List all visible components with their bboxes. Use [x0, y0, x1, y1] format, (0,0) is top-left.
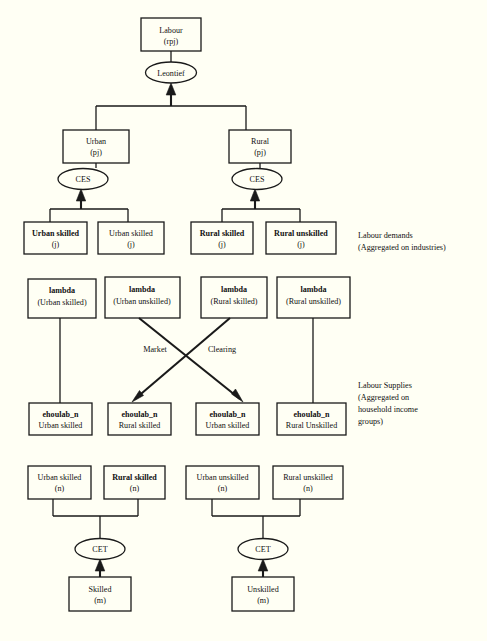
node-cet-left: CET — [75, 539, 125, 560]
node-labour: Labour (rpj) — [141, 18, 201, 51]
node-unskilled: Unskilled (m) — [232, 577, 294, 611]
node-ces-left: CES — [58, 169, 108, 190]
node-demand4-line2: (j) — [297, 240, 305, 249]
node-urban-box — [63, 130, 129, 163]
node-rural-line1: Rural — [251, 137, 270, 146]
node-supply1-line2: Urban skilled — [39, 421, 83, 430]
node-demand-rural-skilled: Rural skilled (j) — [191, 222, 253, 254]
node-group4-box — [273, 466, 343, 499]
node-demand1-box — [24, 222, 87, 254]
diagram-page: Labour (rpj) Leontief Urban (pj) Rural (… — [0, 0, 487, 641]
node-rural-line2: (pj) — [254, 148, 266, 157]
node-supply3-box — [196, 403, 259, 435]
node-demand2-box — [98, 222, 164, 254]
arrowhead-leontief — [166, 83, 176, 95]
node-supply1-line1: ehoulab_n — [43, 410, 79, 419]
node-group4-line2: (n) — [303, 484, 313, 493]
node-lambda4-line2: (Rural unskilled) — [286, 297, 341, 306]
node-urban-line1: Urban — [86, 137, 106, 146]
node-unskilled-box — [232, 577, 294, 611]
node-group3-line2: (n) — [218, 484, 228, 493]
node-lambda4-line1: lambda — [300, 285, 326, 294]
node-supply-rural-skilled: ehoulab_n Rural skilled — [108, 403, 171, 435]
node-demand-urban-skilled-2: Urban skilled (j) — [98, 222, 164, 254]
node-demand-rural-unskilled: Rural unskilled (j) — [266, 222, 336, 254]
node-supply3-line1: ehoulab_n — [210, 410, 246, 419]
node-group-rural-skilled: Rural skilled (n) — [104, 466, 165, 499]
arrowhead-cet-right — [258, 559, 268, 571]
node-urban-line2: (pj) — [90, 148, 102, 157]
node-ces-left-label: CES — [76, 175, 91, 184]
node-group4-line1: Rural unskilled — [283, 473, 333, 482]
arrowhead-ces-right — [250, 189, 259, 201]
node-leontief: Leontief — [146, 62, 197, 83]
node-supply4-line1: ehoulab_n — [294, 410, 330, 419]
node-group2-box — [104, 466, 165, 499]
annotation-supplies-line4: groups) — [358, 417, 383, 426]
node-lambda1-line2: (Urban skilled) — [37, 298, 87, 307]
arrowhead-ces-left — [76, 189, 85, 201]
node-demand1-line1: Urban skilled — [32, 229, 80, 238]
node-supply4-box — [277, 403, 346, 435]
node-group-urban-skilled: Urban skilled (n) — [28, 466, 91, 499]
node-skilled-box — [69, 577, 131, 611]
node-cet-left-label: CET — [92, 545, 107, 554]
arrowhead-cet-left — [95, 559, 105, 571]
node-demand4-line1: Rural unskilled — [274, 229, 328, 238]
labour-nesting-diagram: Labour (rpj) Leontief Urban (pj) Rural (… — [0, 0, 487, 641]
annotation-demands-line2: (Aggregated on industries) — [358, 243, 446, 252]
node-supply2-line1: ehoulab_n — [122, 410, 158, 419]
node-group1-box — [28, 466, 91, 499]
node-supply2-box — [108, 403, 171, 435]
node-supply-urban-skilled-2: ehoulab_n Urban skilled — [196, 403, 259, 435]
annotation-labour-supplies: Labour Supplies (Aggregated on household… — [358, 381, 418, 426]
node-supply4-line2: Rural Unskilled — [286, 421, 337, 430]
node-lambda-rural-unskilled: lambda (Rural unskilled) — [277, 277, 350, 318]
node-demand3-line2: (j) — [218, 240, 226, 249]
node-group1-line2: (n) — [55, 484, 65, 493]
node-group3-line1: Urban unskilled — [197, 473, 249, 482]
node-demand1-line2: (j) — [52, 240, 60, 249]
node-demand3-box — [191, 222, 253, 254]
edge-lambda2-supply3 — [139, 318, 240, 399]
node-supply2-line2: Rural skilled — [119, 421, 161, 430]
node-supply-urban-skilled-1: ehoulab_n Urban skilled — [29, 403, 92, 435]
label-clearing: Clearing — [208, 345, 236, 354]
node-demand4-box — [266, 222, 336, 254]
node-skilled: Skilled (m) — [69, 577, 131, 611]
node-ces-right-label: CES — [250, 175, 265, 184]
arrowhead-supply3 — [232, 389, 244, 402]
annotation-supplies-line1: Labour Supplies — [358, 381, 412, 390]
node-ces-right: CES — [232, 169, 282, 190]
annotation-demands-line1: Labour demands — [358, 231, 413, 240]
node-demand-urban-skilled-1: Urban skilled (j) — [24, 222, 87, 254]
node-lambda-urban-unskilled: lambda (Urban unskilled) — [105, 277, 180, 318]
node-group-urban-unskilled: Urban unskilled (n) — [186, 466, 259, 499]
node-rural-box — [229, 130, 291, 163]
node-lambda-rural-skilled: lambda (Rural skilled) — [201, 277, 267, 318]
node-cet-right: CET — [238, 539, 288, 560]
node-labour-line2: (rpj) — [164, 37, 179, 46]
node-lambda2-line1: lambda — [129, 285, 155, 294]
annotation-supplies-line2: (Aggregated on — [358, 393, 409, 402]
node-lambda3-line1: lambda — [221, 285, 247, 294]
node-unskilled-line1: Unskilled — [247, 585, 278, 594]
node-skilled-line2: (m) — [94, 596, 106, 605]
node-group1-line1: Urban skilled — [38, 473, 82, 482]
node-cet-right-label: CET — [255, 545, 270, 554]
node-lambda-urban-skilled: lambda (Urban skilled) — [28, 279, 96, 318]
edge-lambda3-supply2 — [135, 318, 230, 399]
label-market: Market — [143, 345, 167, 354]
node-rural: Rural (pj) — [229, 130, 291, 163]
node-demand3-line1: Rural skilled — [200, 229, 245, 238]
node-urban: Urban (pj) — [63, 130, 129, 163]
node-leontief-label: Leontief — [157, 69, 185, 78]
node-demand2-line1: Urban skilled — [109, 229, 153, 238]
node-group3-box — [186, 466, 259, 499]
node-lambda2-line2: (Urban unskilled) — [113, 297, 171, 306]
node-unskilled-line2: (m) — [257, 596, 269, 605]
node-group2-line1: Rural skilled — [112, 473, 157, 482]
node-supply-rural-unskilled: ehoulab_n Rural Unskilled — [277, 403, 346, 435]
node-labour-line1: Labour — [159, 26, 183, 35]
node-lambda1-line1: lambda — [49, 286, 75, 295]
